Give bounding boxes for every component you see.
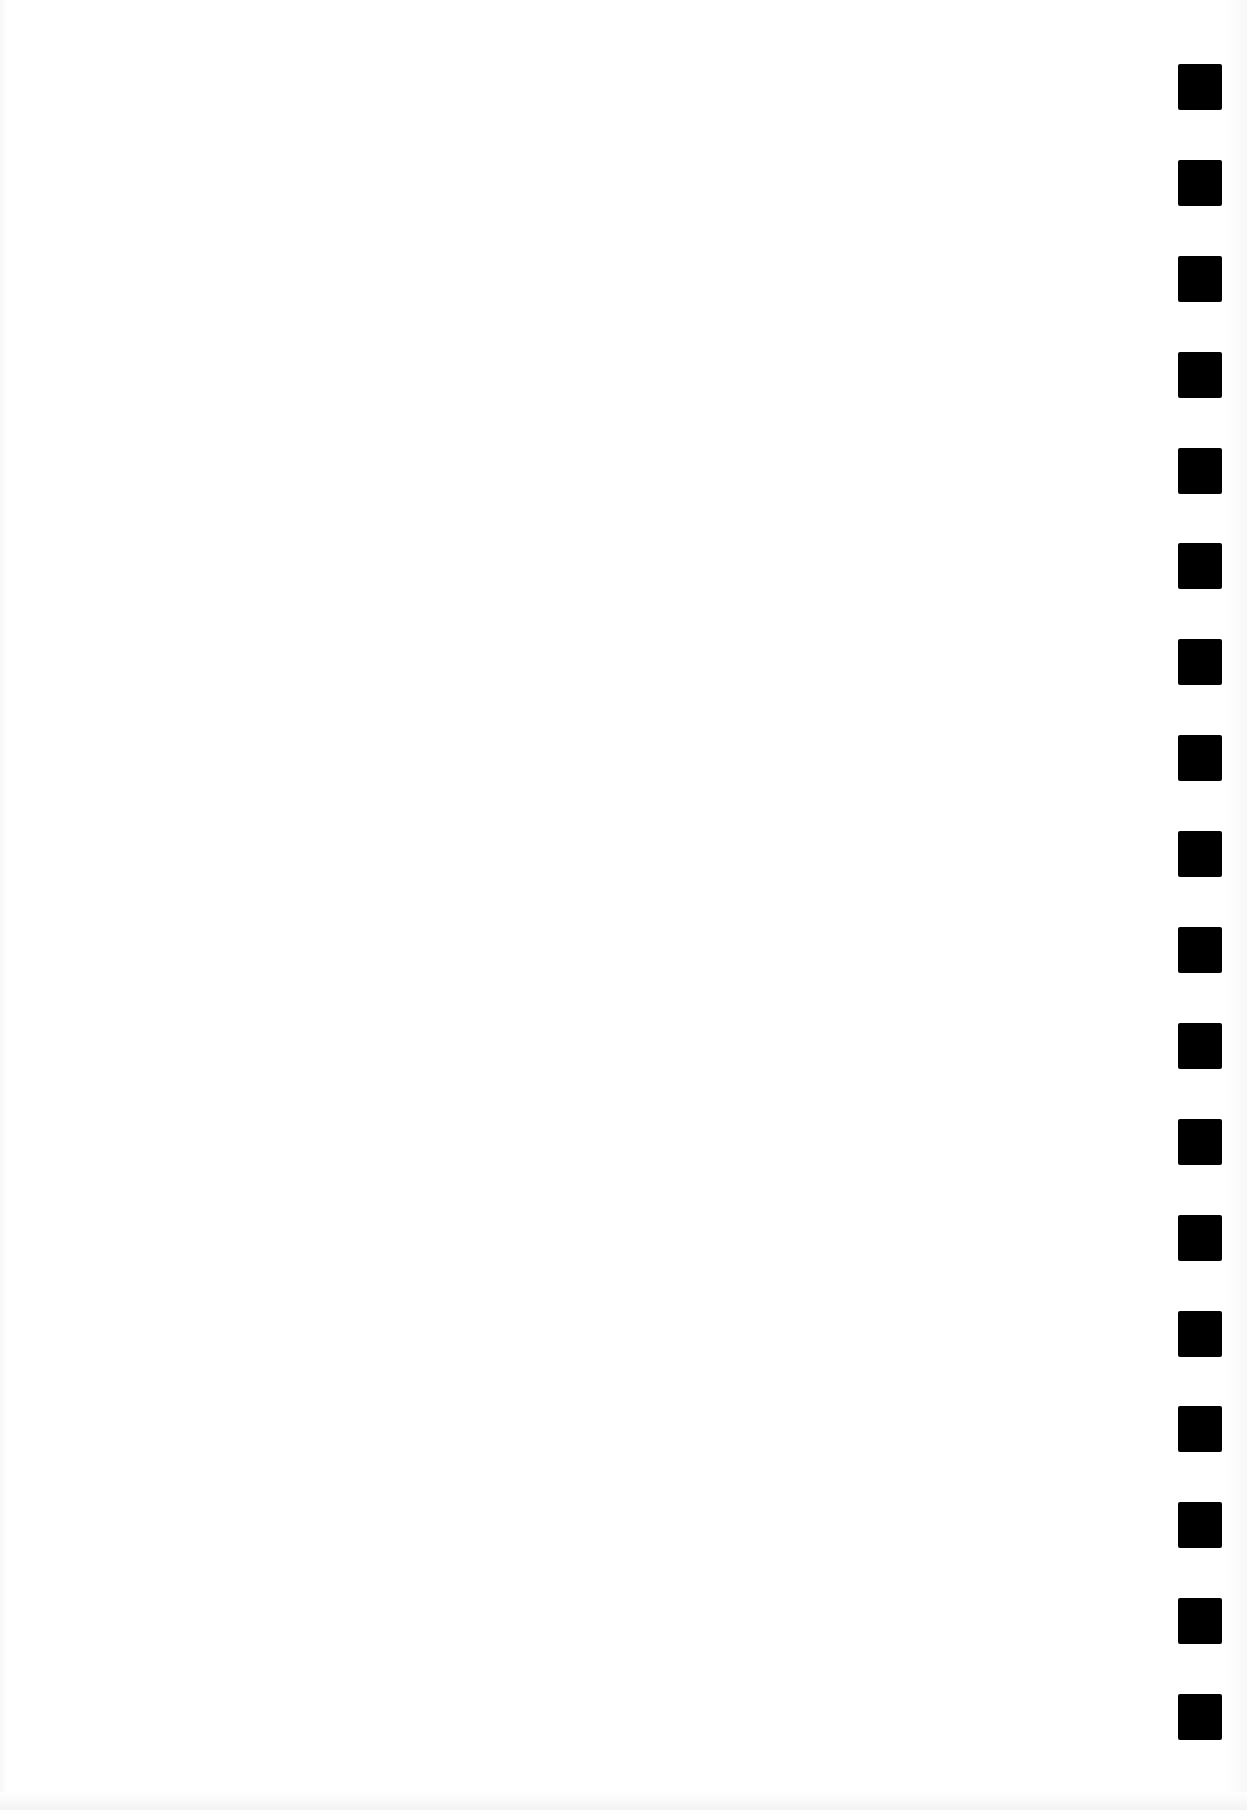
- timing-mark-18: [1178, 1694, 1222, 1740]
- timing-mark-6: [1178, 543, 1222, 589]
- timing-mark-3: [1178, 256, 1222, 302]
- timing-mark-5: [1178, 448, 1222, 494]
- timing-mark-7: [1178, 639, 1222, 685]
- scanned-page: [0, 0, 1247, 1810]
- page-bottom-edge: [0, 1792, 1247, 1810]
- timing-mark-17: [1178, 1598, 1222, 1644]
- timing-mark-8: [1178, 735, 1222, 781]
- timing-mark-12: [1178, 1119, 1222, 1165]
- timing-mark-4: [1178, 352, 1222, 398]
- timing-mark-16: [1178, 1502, 1222, 1548]
- timing-marks-column: [1178, 64, 1223, 1790]
- timing-mark-1: [1178, 64, 1222, 110]
- timing-mark-2: [1178, 160, 1222, 206]
- timing-mark-9: [1178, 831, 1222, 877]
- timing-mark-14: [1178, 1311, 1222, 1357]
- timing-mark-15: [1178, 1406, 1222, 1452]
- timing-mark-13: [1178, 1215, 1222, 1261]
- timing-mark-10: [1178, 927, 1222, 973]
- timing-mark-11: [1178, 1023, 1222, 1069]
